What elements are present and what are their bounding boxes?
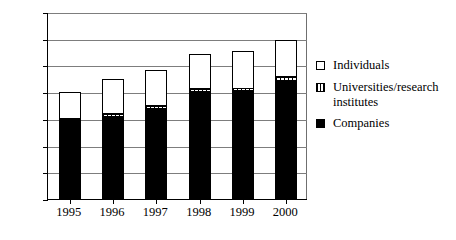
x-tick-mark-2000 bbox=[286, 199, 287, 204]
y-tick-mark-300 bbox=[43, 120, 48, 121]
bar-segment-individuals-1996 bbox=[102, 79, 124, 114]
bar-segment-universities-2000 bbox=[275, 77, 297, 80]
legend-item-1[interactable]: Universities/research institutes bbox=[316, 80, 456, 110]
gridline-300 bbox=[48, 120, 307, 121]
gridline-400 bbox=[48, 93, 307, 94]
bar-segment-companies-1996 bbox=[102, 117, 124, 199]
y-tick-mark-0 bbox=[43, 200, 48, 201]
plot-frame-right bbox=[306, 13, 307, 199]
bar-segment-individuals-1999 bbox=[232, 51, 254, 89]
legend-label-companies: Companies bbox=[333, 116, 389, 131]
open-square-icon bbox=[316, 61, 325, 70]
x-tick-label-1995: 1995 bbox=[46, 205, 92, 220]
x-tick-label-1996: 1996 bbox=[89, 205, 135, 220]
bar-segment-companies-1998 bbox=[189, 92, 211, 199]
bar-segment-companies-1997 bbox=[145, 109, 167, 199]
x-tick-label-2000: 2000 bbox=[262, 205, 308, 220]
y-tick-mark-600 bbox=[43, 40, 48, 41]
filled-square-icon bbox=[316, 119, 325, 128]
bar-segment-individuals-1997 bbox=[145, 70, 167, 106]
y-tick-mark-100 bbox=[43, 173, 48, 174]
stacked-bar-chart: 0100200300400500600700 19951996199719981… bbox=[0, 0, 456, 240]
bar-segment-individuals-1995 bbox=[59, 92, 81, 119]
gridline-500 bbox=[48, 66, 307, 67]
bar-segment-universities-1998 bbox=[189, 89, 211, 92]
gridline-100 bbox=[48, 173, 307, 174]
y-tick-mark-200 bbox=[43, 147, 48, 148]
bar-segment-companies-1995 bbox=[59, 119, 81, 199]
bar-segment-universities-1996 bbox=[102, 114, 124, 117]
gridline-200 bbox=[48, 147, 307, 148]
chart-legend: IndividualsUniversities/research institu… bbox=[316, 58, 456, 138]
y-tick-mark-500 bbox=[43, 66, 48, 67]
legend-label-individuals: Individuals bbox=[333, 58, 389, 73]
x-tick-mark-1998 bbox=[200, 199, 201, 204]
bar-segment-companies-1999 bbox=[232, 91, 254, 199]
x-tick-mark-1999 bbox=[243, 199, 244, 204]
bar-segment-individuals-1998 bbox=[189, 54, 211, 89]
bar-segment-universities-1997 bbox=[145, 106, 167, 109]
legend-item-0[interactable]: Individuals bbox=[316, 58, 456, 73]
plot-area bbox=[47, 13, 307, 200]
bar-segment-companies-2000 bbox=[275, 81, 297, 199]
dotted-square-icon bbox=[316, 83, 325, 92]
gridline-600 bbox=[48, 40, 307, 41]
y-tick-mark-400 bbox=[43, 93, 48, 94]
x-tick-mark-1995 bbox=[70, 199, 71, 204]
x-tick-label-1999: 1999 bbox=[219, 205, 265, 220]
x-tick-mark-1997 bbox=[156, 199, 157, 204]
legend-item-2[interactable]: Companies bbox=[316, 116, 456, 131]
x-tick-label-1997: 1997 bbox=[132, 205, 178, 220]
legend-label-universities: Universities/research institutes bbox=[333, 80, 456, 110]
bar-segment-individuals-2000 bbox=[275, 40, 297, 77]
y-tick-mark-700 bbox=[43, 13, 48, 14]
x-tick-label-1998: 1998 bbox=[176, 205, 222, 220]
x-tick-mark-1996 bbox=[113, 199, 114, 204]
gridline-700 bbox=[48, 13, 307, 14]
